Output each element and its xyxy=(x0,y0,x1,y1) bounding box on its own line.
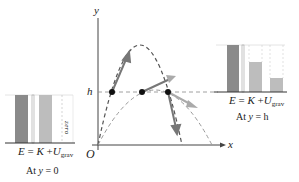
energy-bar-chart-right xyxy=(214,45,287,92)
left-equation: E = K +Ugrav xyxy=(18,146,73,159)
trajectory-shallow xyxy=(98,90,212,145)
eq-E: E xyxy=(229,94,236,106)
energy-bar-chart-left xyxy=(5,95,75,143)
y-axis-label: y xyxy=(94,5,99,16)
caption-prefix: At xyxy=(236,111,249,122)
caption-value: = h xyxy=(253,111,269,122)
eq-equals: = xyxy=(27,145,33,157)
eq-K: K xyxy=(36,145,43,157)
x-axis-label: x xyxy=(228,139,233,150)
caption-prefix: At xyxy=(26,165,39,176)
eq-equals: = xyxy=(238,94,244,106)
zero-label: zero xyxy=(63,121,71,135)
origin-label: O xyxy=(86,148,95,160)
eq-U-sub: grav xyxy=(272,100,284,108)
left-caption: At y = 0 xyxy=(26,166,59,176)
eq-U-sub: grav xyxy=(61,151,73,159)
eq-K: K xyxy=(247,94,254,106)
caption-value: = 0 xyxy=(43,165,59,176)
right-equation: E = K +Ugrav xyxy=(229,95,284,108)
x-axis-arrow-icon xyxy=(220,143,226,148)
h-label: h xyxy=(87,86,93,97)
eq-U: U xyxy=(53,145,61,157)
velocity-vectors xyxy=(112,52,198,134)
eq-U: U xyxy=(264,94,272,106)
eq-E: E xyxy=(18,145,25,157)
right-caption: At y = h xyxy=(236,112,269,122)
axes xyxy=(92,18,220,150)
